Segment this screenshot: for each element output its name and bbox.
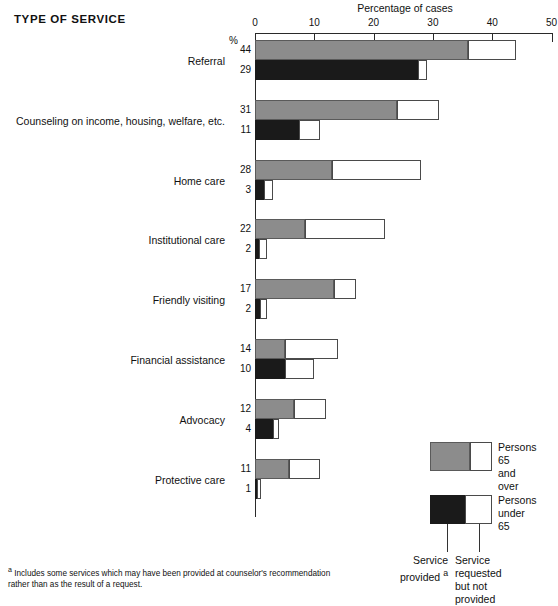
bar-segment-provided — [255, 219, 305, 239]
axis-title: Percentage of cases — [255, 2, 555, 14]
bar-segment-provided — [255, 60, 418, 80]
x-axis-tick-label-30: 30 — [427, 17, 438, 28]
bar-segment-provided — [255, 359, 285, 379]
bar-segment-provided — [255, 40, 468, 60]
callout-not-provided-line1: Service — [455, 554, 525, 567]
category-label: Institutional care — [15, 234, 225, 246]
bar-value-label: 22 — [240, 223, 251, 234]
x-axis-tick-20 — [374, 33, 375, 40]
bar-value-label: 4 — [245, 423, 251, 434]
bar-group: Institutional care222 — [0, 219, 557, 259]
x-axis-tick-40 — [492, 33, 493, 40]
bar-row — [255, 60, 558, 80]
bar-row — [255, 219, 558, 239]
legend-label-over65: Persons 65 and over — [498, 441, 537, 493]
bar-group: Friendly visiting172 — [0, 279, 557, 319]
bar-value-label: 3 — [245, 184, 251, 195]
bar-segment-provided — [255, 339, 285, 359]
bar-row — [255, 40, 558, 60]
bar-value-label: 2 — [245, 303, 251, 314]
bar-segment-provided — [255, 160, 332, 180]
footnote-marker: a — [8, 566, 12, 573]
legend-label-under65: Persons under 65 — [498, 494, 537, 533]
callout-provided: Service provided a — [388, 554, 448, 584]
bar-row — [255, 359, 558, 379]
bar-value-label: 2 — [245, 243, 251, 254]
bar-segment-provided — [255, 100, 397, 120]
callout-not-provided-line2: requested — [455, 567, 525, 580]
footnote: a Includes some services which may have … — [8, 564, 348, 590]
bar-row — [255, 279, 558, 299]
bar-segment-not-provided — [260, 299, 267, 319]
bar-group: Home care283 — [0, 160, 557, 200]
callout-leader-not-provided — [479, 524, 480, 552]
callout-provided-word: provided — [400, 571, 440, 583]
bar-value-label: 1 — [245, 483, 251, 494]
bar-value-label: 28 — [240, 164, 251, 175]
x-axis-line — [255, 33, 552, 34]
footnote-text: Includes some services which may have be… — [8, 569, 330, 589]
bar-segment-not-provided — [259, 239, 267, 259]
callout-not-provided: Service requested but not provided — [455, 554, 525, 606]
bar-value-label: 11 — [241, 463, 251, 474]
bar-value-label: 31 — [240, 104, 251, 115]
legend-swatch-provided-black — [430, 495, 465, 524]
callout-provided-line1: Service — [388, 554, 448, 567]
bar-value-label: 11 — [241, 124, 251, 135]
legend-label-under65-line2: under 65 — [498, 507, 537, 533]
x-axis-tick-label-50: 50 — [546, 17, 557, 28]
bar-segment-not-provided — [289, 459, 320, 479]
bar-row — [255, 299, 558, 319]
bar-segment-provided — [255, 419, 273, 439]
bar-row — [255, 239, 558, 259]
legend-label-over65-line1: Persons 65 — [498, 441, 537, 467]
bar-row — [255, 180, 558, 200]
bar-value-label: 29 — [240, 64, 251, 75]
legend-label-under65-line1: Persons — [498, 494, 537, 507]
bar-segment-not-provided — [397, 100, 439, 120]
category-label: Protective care — [15, 474, 225, 486]
bar-segment-not-provided — [332, 160, 421, 180]
bar-segment-not-provided — [257, 479, 261, 499]
bar-segment-not-provided — [418, 60, 427, 80]
bar-segment-not-provided — [305, 219, 385, 239]
bar-group: Referral4429 — [0, 40, 557, 80]
bar-value-label: 14 — [240, 343, 251, 354]
bar-segment-not-provided — [294, 399, 327, 419]
bar-segment-provided — [255, 120, 299, 140]
bar-segment-not-provided — [299, 120, 320, 140]
legend-swatch-over65 — [430, 442, 492, 471]
callout-provided-superscript: a — [443, 568, 448, 578]
category-label: Referral — [15, 55, 225, 67]
legend-swatch-under65 — [430, 495, 492, 524]
category-label: Friendly visiting — [15, 294, 225, 306]
bar-value-label: 17 — [240, 283, 251, 294]
bar-segment-not-provided — [468, 40, 515, 60]
bar-row — [255, 160, 558, 180]
callout-leader-provided — [447, 524, 448, 552]
category-label: Counseling on income, housing, welfare, … — [15, 115, 225, 127]
bar-value-label: 12 — [240, 403, 251, 414]
legend-label-over65-line2: and over — [498, 467, 537, 493]
legend-swatch-notprovided-white-2 — [465, 495, 492, 524]
bar-segment-not-provided — [285, 359, 315, 379]
bar-segment-provided — [255, 279, 334, 299]
bar-segment-not-provided — [334, 279, 356, 299]
x-axis-tick-label-20: 20 — [368, 17, 379, 28]
bar-row — [255, 120, 558, 140]
bar-segment-provided — [255, 459, 289, 479]
bar-row — [255, 100, 558, 120]
callout-not-provided-line4: provided — [455, 593, 525, 606]
bar-segment-provided — [255, 180, 264, 200]
x-axis-tick-label-10: 10 — [309, 17, 320, 28]
bar-group: Financial assistance1410 — [0, 339, 557, 379]
category-label: Financial assistance — [15, 354, 225, 366]
bar-group: Advocacy124 — [0, 399, 557, 439]
category-label: Home care — [15, 175, 225, 187]
bar-value-label: 10 — [240, 363, 251, 374]
bar-value-label: 44 — [240, 44, 251, 55]
legend-swatch-provided-gray — [430, 442, 470, 471]
x-axis-tick-30 — [433, 33, 434, 40]
x-axis-tick-label-0: 0 — [252, 17, 258, 28]
